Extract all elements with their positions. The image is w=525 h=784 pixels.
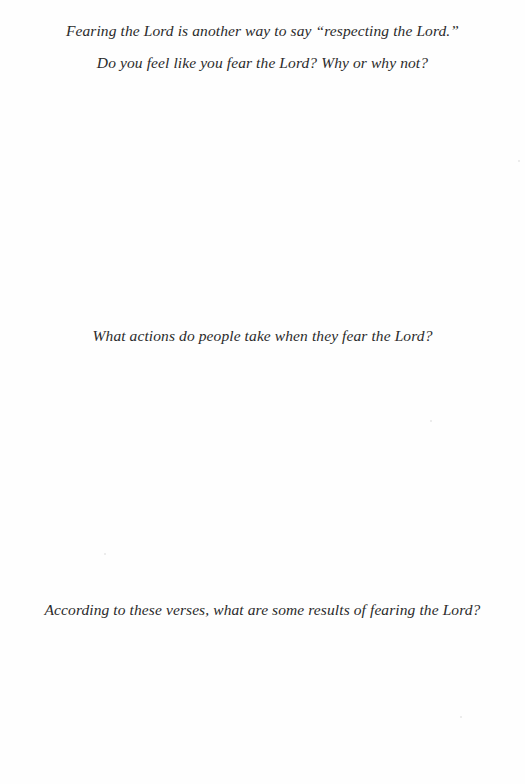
- answer-space-3: [40, 635, 485, 775]
- question-1: Do you feel like you fear the Lord? Why …: [0, 54, 525, 72]
- paper-speck: [518, 160, 520, 162]
- question-3: According to these verses, what are some…: [0, 601, 525, 619]
- answer-space-2: [40, 360, 485, 590]
- worksheet-page: Fearing the Lord is another way to say “…: [0, 0, 525, 784]
- answer-space-1: [40, 85, 485, 315]
- intro-statement: Fearing the Lord is another way to say “…: [0, 22, 525, 40]
- question-2: What actions do people take when they fe…: [0, 327, 525, 345]
- paper-speck: [460, 716, 462, 718]
- paper-speck: [104, 553, 106, 555]
- paper-speck: [430, 420, 432, 422]
